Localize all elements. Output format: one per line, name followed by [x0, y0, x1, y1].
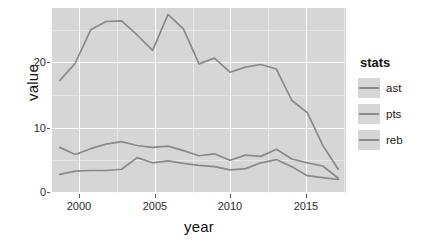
- legend-item-pts[interactable]: pts: [358, 103, 424, 125]
- legend-item-reb[interactable]: reb: [358, 129, 424, 151]
- y-tick-mark-20: [47, 62, 50, 63]
- x-tick-mark-2010: [230, 194, 231, 198]
- legend-title: stats: [360, 55, 424, 70]
- y-tick-label-10: 10: [24, 122, 46, 134]
- x-tick-label-2005: 2005: [135, 200, 175, 212]
- legend-label-ast: ast: [386, 82, 401, 94]
- y-tick-mark-0: [47, 192, 50, 193]
- y-tick-label-0: 0: [24, 186, 46, 198]
- legend: stats ast pts reb: [358, 55, 424, 155]
- series-line-reb: [60, 142, 339, 179]
- x-tick-mark-2000: [79, 194, 80, 198]
- chart-figure: value 20 10 0: [0, 0, 425, 248]
- legend-item-ast[interactable]: ast: [358, 77, 424, 99]
- x-tick-label-2015: 2015: [286, 200, 326, 212]
- legend-label-reb: reb: [386, 134, 403, 146]
- legend-key-ast-icon: [358, 78, 380, 98]
- y-axis-tick-labels: 20 10 0: [22, 0, 46, 248]
- legend-key-reb-icon: [358, 130, 380, 150]
- x-tick-mark-2005: [155, 194, 156, 198]
- y-tick-mark-10: [47, 128, 50, 129]
- legend-label-pts: pts: [386, 108, 401, 120]
- y-tick-label-20: 20: [24, 56, 46, 68]
- x-axis-title: year: [52, 218, 346, 235]
- series-lines: [52, 8, 346, 193]
- plot-panel: [52, 8, 346, 193]
- x-tick-label-2010: 2010: [210, 200, 250, 212]
- x-tick-label-2000: 2000: [59, 200, 99, 212]
- legend-key-pts-icon: [358, 104, 380, 124]
- x-tick-mark-2015: [306, 194, 307, 198]
